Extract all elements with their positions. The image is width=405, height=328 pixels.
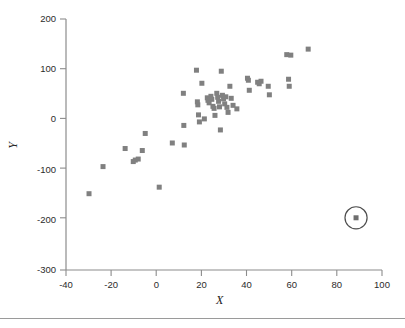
data-point-marker [267,92,272,97]
data-point-marker [216,99,221,104]
x-ticks-group [66,270,382,276]
data-point-marker [202,116,207,121]
x-tick-label: 20 [181,279,221,290]
data-markers-group [87,47,311,197]
y-axis-label: Y [6,142,21,149]
data-point-marker [226,110,231,115]
data-point-marker [101,164,106,169]
data-point-marker [234,106,239,111]
x-tick-label: 0 [136,279,176,290]
x-tick-label: -40 [46,279,86,290]
data-point-marker [140,148,145,153]
data-point-marker [219,69,224,74]
x-tick-label: 80 [317,279,357,290]
x-tick-label: 100 [362,279,402,290]
x-tick-label: -20 [91,279,131,290]
axes-group [66,19,382,270]
scatter-plot-figure: X Y -300-200-1000100200 -40-200204060801… [0,0,405,328]
x-tick-label: 60 [272,279,312,290]
data-point-marker [247,88,252,93]
data-point-marker [87,191,92,196]
y-tick-label: 0 [18,113,56,124]
data-point-marker [259,79,264,84]
data-point-marker [194,68,199,73]
data-point-marker [182,143,187,148]
data-point-marker [143,131,148,136]
data-point-marker [217,104,222,109]
data-point-marker [181,123,186,128]
data-point-marker [157,185,162,190]
x-tick-label: 40 [227,279,267,290]
data-point-marker [266,84,271,89]
data-point-marker [195,102,200,107]
y-tick-label: -200 [18,214,56,225]
data-point-marker [212,113,217,118]
data-point-marker [181,91,186,96]
data-point-marker [306,47,311,52]
data-point-marker [209,97,214,102]
data-point-marker [223,94,228,99]
x-axis-label: X [216,293,223,308]
data-point-marker [246,78,251,83]
data-point-marker [170,140,175,145]
y-tick-label: 100 [18,63,56,74]
data-point-marker [218,127,223,132]
data-point-marker [123,146,128,151]
data-point-marker [136,157,141,162]
data-point-marker [288,53,293,58]
data-point-marker [287,84,292,89]
data-point-marker [196,112,201,117]
y-tick-label: 200 [18,13,56,24]
data-point-marker [286,77,291,82]
y-tick-label: -300 [18,264,56,275]
data-point-marker [199,81,204,86]
data-point-marker [229,96,234,101]
data-point-marker [224,105,229,110]
data-point-marker [212,106,217,111]
data-point-marker [227,84,232,89]
footer-divider [0,318,405,319]
annotation-layer [345,207,367,229]
y-tick-label: -100 [18,164,56,175]
outlier-data-point-marker [354,215,359,220]
data-point-marker [197,119,202,124]
y-ticks-group [60,19,66,270]
